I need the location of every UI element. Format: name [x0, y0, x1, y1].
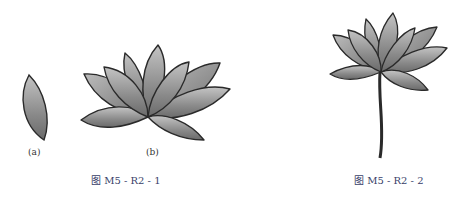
figure-caption-2: 图 M5 - R2 - 2 — [354, 172, 424, 187]
figure-caption-1: 图 M5 - R2 - 1 — [91, 172, 161, 187]
lotus-flower-icon — [81, 45, 230, 140]
lotus-with-stem-icon — [330, 13, 447, 158]
single-petal-icon — [23, 75, 47, 140]
subfigure-label-b: (b) — [146, 147, 159, 157]
stem-icon — [380, 72, 382, 158]
figure-canvas — [0, 0, 470, 199]
subfigure-label-a: (a) — [28, 147, 40, 157]
